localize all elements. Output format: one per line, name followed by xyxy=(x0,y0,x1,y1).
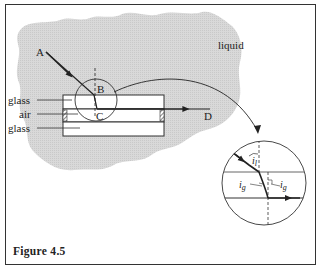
label-liquid: liquid xyxy=(218,40,244,51)
label-point-a: A xyxy=(36,47,44,58)
label-glass-top: glass xyxy=(8,95,30,106)
spacer-right xyxy=(160,110,164,121)
glass-bottom-slab xyxy=(63,122,164,136)
label-point-c: C xyxy=(96,111,103,122)
angle-label-ig-right: ig xyxy=(280,180,287,192)
inset-magnified-view xyxy=(220,140,310,228)
glass-top-slab xyxy=(63,95,164,109)
label-air: air xyxy=(19,109,31,120)
angle-label-il: il xyxy=(252,156,257,168)
optics-diagram xyxy=(0,0,325,270)
figure-caption: Figure 4.5 xyxy=(13,245,66,257)
liquid-region xyxy=(17,12,242,171)
label-point-d: D xyxy=(204,111,212,122)
label-point-b: B xyxy=(97,84,104,95)
spacer-left xyxy=(63,110,67,121)
label-glass-bottom: glass xyxy=(8,123,30,134)
angle-label-ig-left: ig xyxy=(239,180,246,192)
